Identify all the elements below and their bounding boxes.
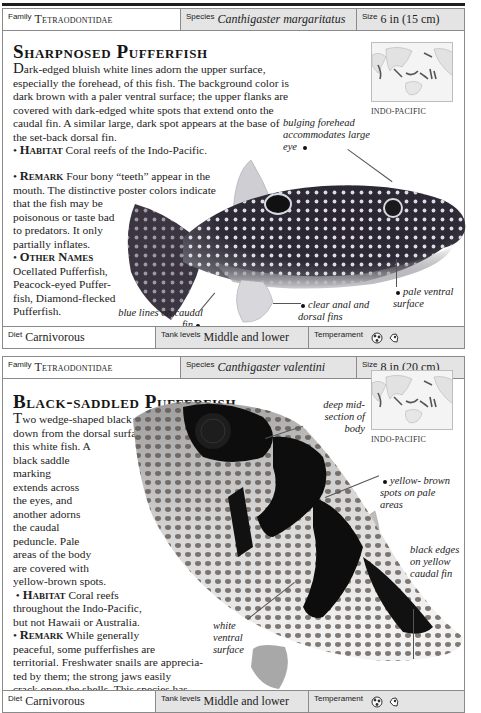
diet-label: Diet [8,694,22,703]
range-map-label: INDO-PACIFIC [371,107,426,116]
diet-cell: Diet Carnivorous [3,691,156,712]
habitat-heading: Habitat [20,143,63,157]
callout-leader-line [396,259,397,287]
family-cell: Family Tetraodontidae [3,357,181,378]
remark-heading: Remark [20,628,64,642]
habitat-heading: Habitat [23,588,66,602]
family-label: Family [8,360,32,369]
tank-levels-value: Middle and lower [204,330,289,345]
callout-bulging-forehead: bulging forehead accommodates large eye [283,117,373,153]
diet-label: Diet [8,330,22,339]
callout-dot [301,304,305,308]
species-entry-black-saddled-pufferfish: Family Tetraodontidae Species Canthigast… [2,356,465,713]
world-map-icon [372,43,453,102]
diet-value: Carnivorous [25,694,84,709]
callout-deep-mid-section: deep mid- section of body [305,399,365,435]
size-label: Size [362,360,378,369]
dropcap: T [13,410,22,426]
callout-clear-fins: clear anal and dorsal fins [298,299,388,323]
diet-value: Carnivorous [25,330,84,345]
species-cell: Species Canthigaster valentini [181,357,357,378]
callout-leader-line [413,609,414,659]
temperament-label: Temperament [314,694,363,703]
species-label: Species [186,12,214,21]
family-value: Tetraodontidae [35,12,113,27]
callout-yellow-brown-spots: yellow- brown spots on pale areas [380,475,450,511]
dropcap: D [13,60,24,76]
temperament-cell: Temperament [309,327,464,348]
size-label: Size [362,12,378,21]
range-map [371,42,453,102]
family-cell: Family Tetraodontidae [3,9,181,30]
species-value: Canthigaster margaritatus [217,12,345,27]
semi-aggressive-fish-icon [388,332,400,344]
territorial-fish-icon [371,696,383,708]
callout-dot [383,480,387,484]
tank-levels-label: Tank levels [161,330,201,339]
callout-dot [396,291,400,295]
species-cell: Species Canthigaster margaritatus [181,9,357,30]
size-value: 6 in (15 cm) [381,12,440,27]
callout-leader-line [273,303,301,304]
family-label: Family [8,12,32,21]
species-title: Sharpnosed Pufferfish [13,41,208,63]
tank-levels-cell: Tank levels Middle and lower [156,691,309,712]
territorial-fish-icon [371,332,383,344]
size-cell: Size 6 in (15 cm) [357,9,464,30]
callout-black-edges: black edges on yellow caudal fin [410,544,460,580]
other-names-heading: Other Names [20,250,93,264]
species-label: Species [186,360,214,369]
tank-levels-value: Middle and lower [204,694,289,709]
remark-heading: Remark [20,169,64,183]
callout-white-ventral: white ventral surface [213,620,258,656]
semi-aggressive-fish-icon [388,696,400,708]
description-text: Dark-edged bluish white lines adorn the … [13,62,295,158]
diet-cell: Diet Carnivorous [3,327,156,348]
species-entry-sharpnosed-pufferfish: Family Tetraodontidae Species Canthigast… [2,8,465,349]
top-rule [2,3,465,6]
family-value: Tetraodontidae [35,360,113,375]
temperament-cell: Temperament [309,691,464,712]
callout-dot [303,146,307,150]
tank-levels-cell: Tank levels Middle and lower [156,327,309,348]
species-value: Canthigaster valentini [217,360,325,375]
species-info-bar: Family Tetraodontidae Species Canthigast… [3,9,464,31]
tank-levels-label: Tank levels [161,694,201,703]
temperament-label: Temperament [314,330,363,339]
care-info-bar: Diet Carnivorous Tank levels Middle and … [3,690,464,712]
care-info-bar: Diet Carnivorous Tank levels Middle and … [3,326,464,348]
callout-pale-ventral: pale ventral surface [393,286,463,310]
